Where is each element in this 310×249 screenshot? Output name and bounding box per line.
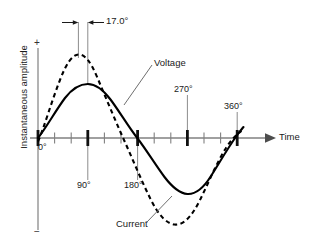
current-callout-leader xyxy=(147,196,172,222)
voltage-callout-leader xyxy=(124,65,152,105)
waveform-phase-diagram: + − Instantaneous amplitude Time 0° 90° … xyxy=(0,0,310,249)
x-axis-title: Time xyxy=(279,132,300,142)
tick-label-0: 0° xyxy=(38,143,47,152)
tick-label-90: 90° xyxy=(77,181,91,190)
time-axis-arrowhead xyxy=(265,133,276,143)
callout-leaders xyxy=(124,65,172,222)
tick-label-180: 180° xyxy=(124,181,143,190)
tick-label-360: 360° xyxy=(224,102,243,111)
phase-dimension-arrows xyxy=(62,20,104,25)
y-axis-title: Instantaneous amplitude xyxy=(18,45,29,149)
y-axis-minus-sign: − xyxy=(34,226,40,237)
current-series-label: Current xyxy=(116,219,148,229)
y-axis-plus-sign: + xyxy=(34,37,40,48)
current-waveform xyxy=(38,54,242,224)
chart-canvas xyxy=(0,0,310,249)
y-axis-title-wrapper: Instantaneous amplitude xyxy=(13,32,31,162)
phase-angle-label: 17.0° xyxy=(106,16,128,26)
tick-label-270: 270° xyxy=(174,85,193,94)
voltage-series-label: Voltage xyxy=(154,58,186,68)
phase-marker-lines xyxy=(78,22,87,85)
